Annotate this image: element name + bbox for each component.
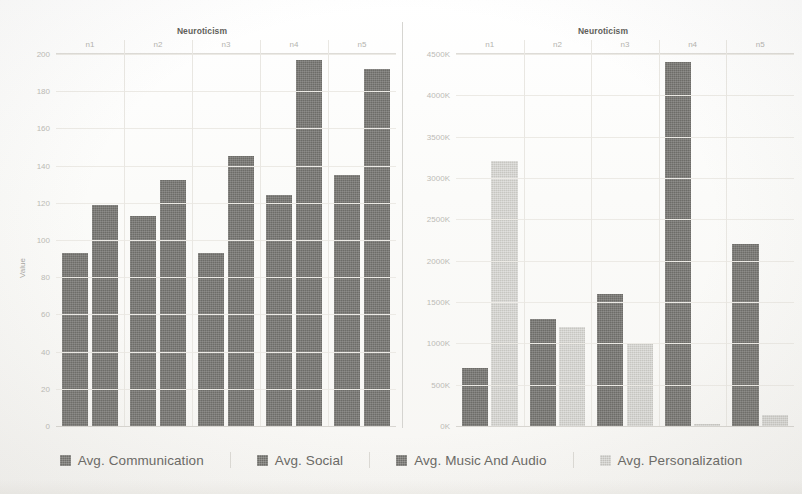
y-axis-tick-label: 20 <box>41 384 50 393</box>
legend-separator <box>230 452 231 468</box>
y-axis-tick-label: 1500K <box>427 298 450 307</box>
charts-container: Neuroticism n1n2n3n4n5 02040608010012014… <box>0 0 802 440</box>
y-axis-tick-label: 500K <box>431 380 450 389</box>
legend-separator <box>369 452 370 468</box>
y-axis-tick-label: 2500K <box>427 215 450 224</box>
y-axis-tick-label: 180 <box>37 87 50 96</box>
y-axis-title-left: Value <box>18 258 27 278</box>
y-axis-tick-label: 200 <box>37 50 50 59</box>
legend-item-avg-music-and-audio[interactable]: Avg. Music And Audio <box>396 453 546 468</box>
chart-legend: Avg. CommunicationAvg. SocialAvg. Music … <box>0 440 802 480</box>
chart-panel-right: Neuroticism n1n2n3n4n5 0K500K1000K1500K2… <box>404 0 802 440</box>
y-axis-tick-label: 4500K <box>427 50 450 59</box>
y-axis-tick-label: 2000K <box>427 256 450 265</box>
legend-separator <box>573 452 574 468</box>
y-axis-tick-label: 60 <box>41 310 50 319</box>
y-axis-right: 0K500K1000K1500K2000K2500K3000K3500K4000… <box>404 0 802 440</box>
y-axis-tick-label: 140 <box>37 161 50 170</box>
legend-label: Avg. Personalization <box>618 453 743 468</box>
legend-item-avg-communication[interactable]: Avg. Communication <box>60 453 204 468</box>
legend-label: Avg. Social <box>275 453 343 468</box>
chart-panel-left: Neuroticism n1n2n3n4n5 02040608010012014… <box>0 0 404 440</box>
legend-swatch-icon <box>60 455 71 466</box>
legend-label: Avg. Communication <box>78 453 204 468</box>
y-axis-tick-label: 100 <box>37 236 50 245</box>
y-axis-tick-label: 1000K <box>427 339 450 348</box>
y-axis-tick-label: 120 <box>37 198 50 207</box>
legend-item-avg-personalization[interactable]: Avg. Personalization <box>600 453 743 468</box>
y-axis-tick-label: 4000K <box>427 91 450 100</box>
y-axis-tick-label: 3000K <box>427 174 450 183</box>
y-axis-tick-label: 3500K <box>427 132 450 141</box>
legend-item-avg-social[interactable]: Avg. Social <box>257 453 343 468</box>
legend-swatch-icon <box>257 455 268 466</box>
y-axis-tick-label: 40 <box>41 347 50 356</box>
y-axis-tick-label: 80 <box>41 273 50 282</box>
y-axis-tick-label: 160 <box>37 124 50 133</box>
panel-divider <box>402 22 403 428</box>
y-axis-tick-label: 0 <box>46 422 50 431</box>
legend-swatch-icon <box>600 455 611 466</box>
y-axis-tick-label: 0K <box>440 422 450 431</box>
legend-label: Avg. Music And Audio <box>414 453 546 468</box>
legend-swatch-icon <box>396 455 407 466</box>
y-axis-left: 020406080100120140160180200 <box>0 0 404 440</box>
